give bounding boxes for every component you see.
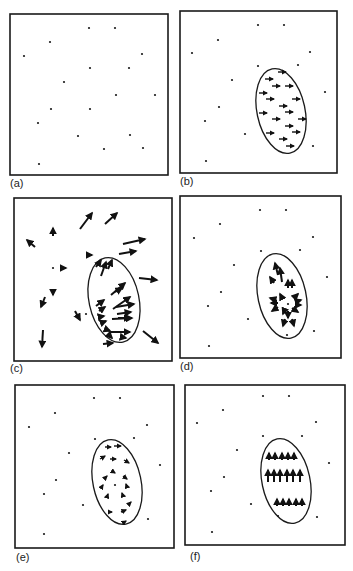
particle-dot: [259, 209, 261, 211]
particle-dot: [312, 145, 314, 147]
particle-dot: [207, 305, 209, 307]
particle-dot: [262, 435, 264, 437]
vector-arrow-icon: [292, 308, 298, 312]
region-ellipse: [81, 253, 148, 348]
panel-frame: [15, 385, 174, 548]
particle-dot: [129, 134, 131, 136]
particle-dot: [236, 449, 238, 451]
vector-arrow-icon: [99, 316, 104, 317]
particle-dot: [219, 223, 221, 225]
vector-arrow-icon: [122, 493, 123, 496]
vector-arrow-icon: [112, 318, 132, 319]
particle-dot: [54, 412, 56, 414]
particle-dot: [217, 39, 219, 41]
particle-dot: [287, 303, 289, 305]
particle-dot: [43, 493, 45, 495]
vector-arrow-icon: [272, 307, 278, 311]
particle-dot: [247, 318, 249, 320]
particle-dot: [313, 330, 315, 332]
particle-dot: [49, 41, 51, 43]
particle-dot: [283, 24, 285, 26]
particle-dot: [299, 249, 301, 251]
particle-dot: [114, 484, 116, 486]
vector-arrow-icon: [103, 343, 113, 344]
panel-label: (b): [180, 175, 193, 187]
particle-dot: [231, 79, 233, 81]
vector-arrow-icon: [121, 337, 126, 338]
particle-dot: [288, 395, 290, 397]
particle-dot: [43, 533, 45, 535]
particle-dot: [193, 237, 195, 239]
vector-arrow-icon: [123, 521, 126, 523]
vector-arrow-icon: [121, 510, 126, 512]
vector-arrow-icon: [139, 278, 157, 280]
vector-arrow-icon: [100, 456, 105, 459]
particle-dot: [103, 148, 105, 150]
particle-dot: [328, 462, 330, 464]
vector-arrow-icon: [112, 471, 115, 473]
particle-dot: [262, 395, 264, 397]
particle-dot: [260, 250, 262, 252]
particle-dot: [301, 435, 303, 437]
particle-dot: [315, 421, 317, 423]
particle-dot: [88, 27, 90, 29]
particle-dot: [128, 67, 130, 69]
panel-frame: [180, 11, 337, 173]
vector-arrow-icon: [270, 298, 276, 300]
panel-label: (d): [180, 360, 193, 372]
vector-arrow-icon: [295, 300, 301, 302]
particle-dot: [211, 531, 213, 533]
particle-dot: [218, 106, 220, 108]
vector-arrow-icon: [99, 307, 105, 311]
particle-dot: [316, 516, 318, 518]
vector-arrow-icon: [105, 329, 110, 331]
particle-dot: [220, 291, 222, 293]
panel-b: (b): [180, 11, 337, 187]
vector-arrow-icon: [75, 311, 80, 320]
panel-c: (c): [10, 198, 172, 374]
vector-arrow-icon: [275, 263, 278, 275]
panel-label: (a): [10, 177, 23, 189]
region-ellipse: [85, 435, 150, 529]
vector-arrow-icon: [105, 213, 117, 224]
vector-arrow-icon: [107, 494, 108, 497]
particle-dot: [68, 452, 70, 454]
particle-dot: [89, 108, 91, 110]
vector-arrow-icon: [123, 239, 145, 244]
particle-dot: [93, 397, 95, 399]
particle-dot: [63, 81, 65, 83]
particle-dot: [285, 209, 287, 211]
vector-arrow-icon: [27, 240, 35, 247]
panel-label: (c): [10, 362, 23, 374]
particle-dot: [94, 438, 96, 440]
vector-arrow-icon: [283, 319, 285, 326]
particle-dot: [244, 133, 246, 135]
particle-dot: [223, 476, 225, 478]
particle-dot: [154, 94, 156, 96]
particle-dot: [250, 503, 252, 505]
particle-dot: [208, 345, 210, 347]
particle-dot: [28, 426, 30, 428]
vector-arrow-icon: [42, 330, 43, 347]
particle-dot: [191, 52, 193, 54]
panel-frame: [10, 14, 168, 175]
vector-arrow-icon: [41, 297, 45, 307]
particle-dot: [326, 276, 328, 278]
particle-dot: [50, 108, 52, 110]
panel-frame: [185, 385, 345, 545]
particle-dot: [324, 91, 326, 93]
particle-dot: [159, 464, 161, 466]
particle-dot: [37, 122, 39, 124]
vector-arrow-icon: [104, 476, 107, 479]
particle-dot: [119, 397, 121, 399]
vector-arrow-icon: [294, 294, 298, 298]
vector-arrow-icon: [108, 334, 112, 338]
particle-dot: [115, 94, 117, 96]
particle-dot: [312, 236, 314, 238]
vector-arrow-icon: [128, 502, 131, 505]
panel-e: (e): [15, 385, 174, 563]
particle-dot: [133, 437, 135, 439]
particle-dot: [38, 163, 40, 165]
particle-dot: [257, 65, 259, 67]
vector-arrow-icon: [280, 294, 282, 298]
